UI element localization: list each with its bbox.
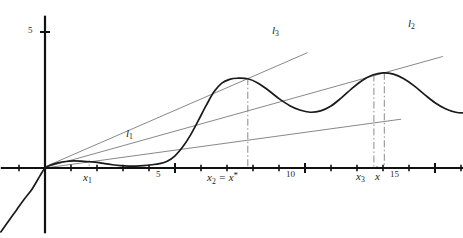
function-curve-group [1,73,463,232]
marker-label-x2: x2 = x* [207,171,238,185]
x-axis-tick-label-15: 15 [390,170,399,179]
function-plot-svg [0,0,463,238]
y-axis-tick-label-5: 5 [28,26,33,35]
marker-label-x2-star: * [234,170,239,180]
marker-label-x1-subscript: 1 [88,176,92,185]
x-axis-tick-label-10: 10 [286,170,295,179]
axes-group [1,16,463,234]
marker-label-xhat-wrap: ̂x [375,171,380,182]
function-curve [1,73,463,232]
secant-line-l1 [41,119,401,168]
hat-accent-icon: ̂ [375,166,379,176]
dash-dot-lines-group [89,73,384,169]
line-label-l1: l1 [126,128,133,141]
line-label-l3-subscript: 3 [275,29,279,38]
marker-label-x3: x3 [356,171,365,184]
x-axis-tick-label-5: 5 [156,170,161,179]
line-label-l3: l3 [272,25,279,38]
figure-canvas: 5 5 10 15 l1 l3 l2 x1 x2 = x* x3 ̂x [0,0,463,238]
marker-label-x2-equals: = x [216,171,234,183]
marker-label-xhat: ̂x [375,171,380,182]
line-label-l1-subscript: 1 [129,132,133,141]
marker-label-x1: x1 [83,172,92,185]
line-label-l2-subscript: 2 [411,22,415,31]
marker-label-x3-subscript: 3 [361,175,365,184]
line-label-l2: l2 [408,18,415,31]
secant-lines-group [41,53,443,169]
secant-line-l3 [41,53,308,169]
